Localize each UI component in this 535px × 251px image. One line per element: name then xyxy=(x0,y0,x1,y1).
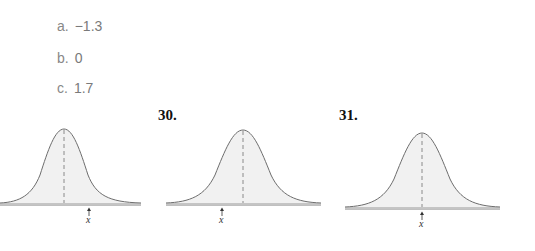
normal-curve-3 xyxy=(345,133,500,220)
x-label-1: x xyxy=(85,214,91,225)
normal-curves: x x x xyxy=(0,0,535,251)
normal-curve-2 xyxy=(166,130,321,216)
x-label-3: x xyxy=(418,218,424,229)
normal-curve-1 xyxy=(0,129,141,216)
x-label-2: x xyxy=(218,214,224,225)
